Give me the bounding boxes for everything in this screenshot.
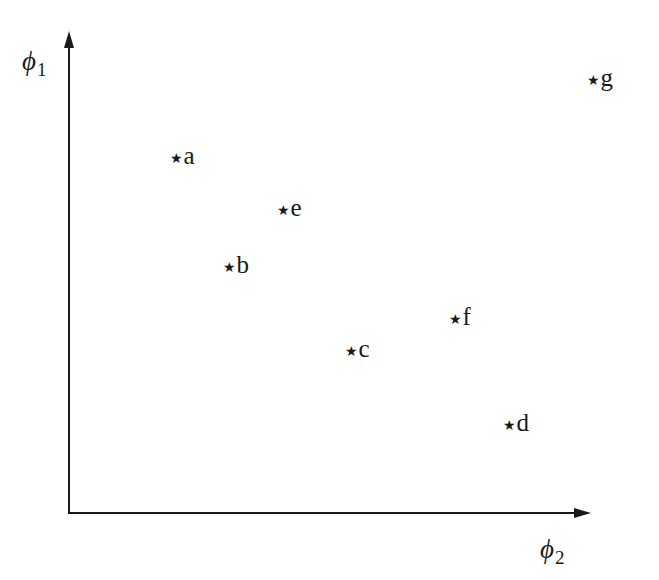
point-label: a [184, 143, 195, 168]
x-axis [68, 508, 591, 518]
point-a: ★a [170, 143, 195, 168]
point-c: ★c [345, 336, 370, 361]
star-icon: ★ [449, 312, 462, 326]
axes-canvas [0, 0, 659, 580]
point-label: g [601, 65, 614, 90]
star-icon: ★ [223, 260, 236, 274]
y-axis-arrowhead-icon [64, 31, 74, 48]
y-axis-symbol: ϕ [22, 46, 36, 76]
point-label: c [359, 336, 370, 361]
star-icon: ★ [170, 151, 183, 165]
point-f: ★f [449, 304, 471, 329]
y-axis [64, 31, 74, 514]
point-d: ★d [503, 410, 529, 435]
point-label: f [463, 304, 471, 329]
point-e: ★e [277, 195, 302, 220]
y-axis-label: ϕ1 [22, 48, 46, 75]
y-axis-subscript: 1 [37, 59, 47, 80]
star-icon: ★ [277, 203, 290, 217]
star-icon: ★ [503, 418, 516, 432]
point-label: d [517, 410, 530, 435]
x-axis-label: ϕ2 [540, 536, 564, 563]
star-icon: ★ [587, 73, 600, 87]
star-icon: ★ [345, 344, 358, 358]
point-b: ★b [223, 252, 249, 277]
x-axis-symbol: ϕ [540, 534, 554, 564]
x-axis-subscript: 2 [555, 547, 565, 568]
point-g: ★g [587, 65, 613, 90]
x-axis-arrowhead-icon [574, 508, 591, 518]
point-label: b [237, 252, 250, 277]
point-label: e [291, 195, 302, 220]
